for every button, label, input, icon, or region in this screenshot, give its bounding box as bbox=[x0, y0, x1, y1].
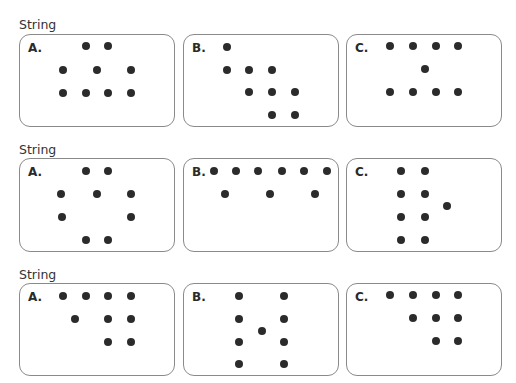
option-letter: B. bbox=[192, 290, 206, 304]
dot-icon bbox=[421, 213, 429, 221]
dot-icon bbox=[454, 88, 462, 96]
dot-icon bbox=[421, 65, 429, 73]
dot-icon bbox=[254, 167, 262, 175]
option-panel-b[interactable]: B. bbox=[183, 34, 339, 127]
dot-icon bbox=[280, 360, 288, 368]
dot-icon bbox=[127, 338, 135, 346]
dot-icon bbox=[59, 292, 67, 300]
section-label: String bbox=[19, 143, 56, 157]
section-label: String bbox=[19, 268, 56, 282]
dot-icon bbox=[258, 327, 266, 335]
dot-icon bbox=[454, 337, 462, 345]
dot-icon bbox=[454, 291, 462, 299]
dot-icon bbox=[104, 338, 112, 346]
dot-icon bbox=[210, 167, 218, 175]
dot-icon bbox=[59, 89, 67, 97]
dot-icon bbox=[82, 89, 90, 97]
dot-icon bbox=[432, 291, 440, 299]
dot-icon bbox=[245, 66, 253, 74]
dot-icon bbox=[280, 292, 288, 300]
dot-icon bbox=[421, 236, 429, 244]
dot-icon bbox=[409, 314, 417, 322]
dot-icon bbox=[268, 66, 276, 74]
dot-icon bbox=[127, 66, 135, 74]
dot-icon bbox=[268, 88, 276, 96]
dot-icon bbox=[59, 66, 67, 74]
dot-icon bbox=[127, 292, 135, 300]
dot-icon bbox=[432, 314, 440, 322]
option-letter: A. bbox=[28, 290, 42, 304]
dot-icon bbox=[268, 111, 276, 119]
dot-icon bbox=[386, 291, 394, 299]
option-letter: A. bbox=[28, 41, 42, 55]
dot-icon bbox=[280, 315, 288, 323]
dot-icon bbox=[57, 190, 65, 198]
dot-icon bbox=[409, 291, 417, 299]
section-label: String bbox=[19, 18, 56, 32]
dot-icon bbox=[432, 42, 440, 50]
dot-icon bbox=[421, 190, 429, 198]
dot-icon bbox=[454, 42, 462, 50]
dot-icon bbox=[397, 236, 405, 244]
dot-icon bbox=[104, 42, 112, 50]
dot-icon bbox=[245, 88, 253, 96]
dot-icon bbox=[291, 88, 299, 96]
dot-icon bbox=[266, 190, 274, 198]
dot-icon bbox=[409, 88, 417, 96]
dot-icon bbox=[58, 213, 66, 221]
option-letter: C. bbox=[355, 290, 368, 304]
option-letter: A. bbox=[28, 165, 42, 179]
dot-icon bbox=[232, 167, 240, 175]
option-letter: C. bbox=[355, 41, 368, 55]
dot-icon bbox=[127, 213, 135, 221]
dot-icon bbox=[454, 314, 462, 322]
dot-icon bbox=[432, 88, 440, 96]
dot-icon bbox=[386, 88, 394, 96]
option-letter: C. bbox=[355, 165, 368, 179]
dot-icon bbox=[409, 42, 417, 50]
dot-icon bbox=[280, 338, 288, 346]
dot-icon bbox=[104, 167, 112, 175]
dot-icon bbox=[300, 167, 308, 175]
dot-icon bbox=[82, 236, 90, 244]
option-panel-a[interactable]: A. bbox=[19, 158, 175, 252]
dot-icon bbox=[82, 292, 90, 300]
dot-icon bbox=[397, 167, 405, 175]
option-panel-c[interactable]: C. bbox=[346, 283, 502, 376]
option-letter: B. bbox=[192, 165, 206, 179]
dot-icon bbox=[291, 111, 299, 119]
dot-icon bbox=[93, 66, 101, 74]
dot-icon bbox=[235, 292, 243, 300]
dot-icon bbox=[397, 213, 405, 221]
dot-icon bbox=[223, 43, 231, 51]
dot-icon bbox=[104, 315, 112, 323]
dot-icon bbox=[71, 315, 79, 323]
dot-icon bbox=[104, 292, 112, 300]
dot-icon bbox=[278, 167, 286, 175]
dot-icon bbox=[82, 167, 90, 175]
dot-icon bbox=[323, 167, 331, 175]
option-panel-a[interactable]: A. bbox=[19, 34, 175, 127]
dot-icon bbox=[311, 190, 319, 198]
option-letter: B. bbox=[192, 41, 206, 55]
dot-icon bbox=[443, 202, 451, 210]
dot-icon bbox=[104, 236, 112, 244]
dot-icon bbox=[93, 190, 101, 198]
dot-icon bbox=[235, 315, 243, 323]
option-panel-c[interactable]: C. bbox=[346, 34, 502, 127]
dot-icon bbox=[221, 190, 229, 198]
dot-icon bbox=[127, 315, 135, 323]
option-panel-a[interactable]: A. bbox=[19, 283, 175, 376]
dot-icon bbox=[421, 167, 429, 175]
dot-icon bbox=[397, 190, 405, 198]
dot-icon bbox=[386, 42, 394, 50]
dot-icon bbox=[235, 360, 243, 368]
dot-icon bbox=[235, 338, 243, 346]
dot-icon bbox=[432, 337, 440, 345]
dot-icon bbox=[82, 42, 90, 50]
dot-icon bbox=[223, 66, 231, 74]
dot-icon bbox=[127, 190, 135, 198]
dot-icon bbox=[127, 89, 135, 97]
dot-icon bbox=[104, 89, 112, 97]
